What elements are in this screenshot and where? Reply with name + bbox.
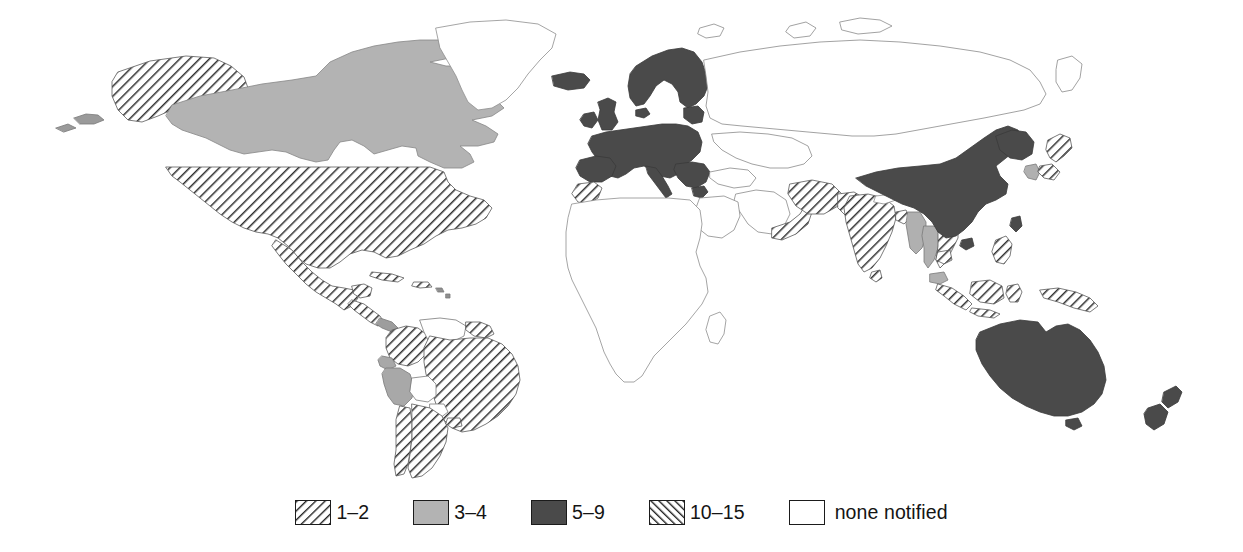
region-uk (598, 98, 618, 130)
world-map-svg (0, 0, 1243, 480)
world-map-figure: 1–2 3–4 5–9 10–15 none notified (0, 0, 1243, 552)
region-hispaniola (412, 282, 432, 288)
legend-swatch-5-9 (531, 500, 567, 525)
legend-label-10-15: 10–15 (690, 501, 745, 524)
legend-label-3-4: 3–4 (454, 501, 487, 524)
legend-swatch-3-4 (413, 500, 449, 525)
legend-label-5-9: 5–9 (572, 501, 605, 524)
map-legend: 1–2 3–4 5–9 10–15 none notified (0, 488, 1243, 536)
legend-label-1-2: 1–2 (336, 501, 369, 524)
legend-item-3-4: 3–4 (413, 500, 487, 525)
legend-label-none-notified: none notified (835, 501, 948, 524)
legend-swatch-1-2 (295, 500, 331, 525)
map-canvas (0, 0, 1243, 480)
legend-swatch-10-15 (649, 500, 685, 525)
legend-swatch-none (789, 500, 825, 525)
legend-item-5-9: 5–9 (531, 500, 605, 525)
region-iceland (552, 72, 590, 90)
legend-item-10-15: 10–15 (649, 500, 745, 525)
legend-item-none-notified: none notified (789, 500, 948, 525)
legend-item-1-2: 1–2 (295, 500, 369, 525)
